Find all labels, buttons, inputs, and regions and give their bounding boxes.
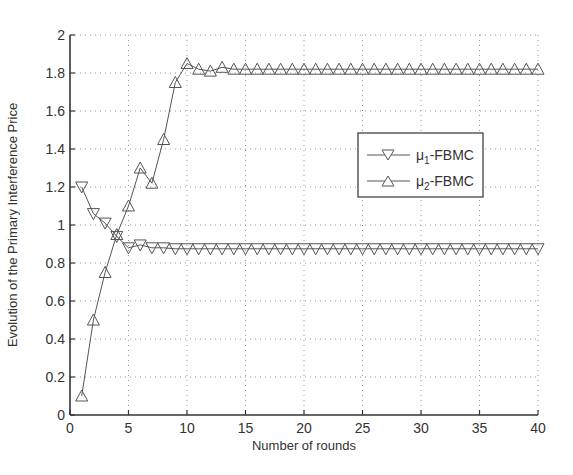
x-tick-label: 10 [179,420,195,436]
data-series [76,58,544,402]
y-tick-label: 1.2 [46,179,66,195]
y-tick-label: 1.4 [46,141,66,157]
x-tick-label: 30 [413,420,429,436]
x-tick-label: 40 [530,420,546,436]
legend-label-main: μ [416,173,424,189]
y-tick-label: 0 [57,407,65,423]
series-line [82,64,538,397]
y-tick-label: 2 [57,27,65,43]
x-tick-label: 5 [125,420,133,436]
x-tick-label: 35 [472,420,488,436]
series-2 [76,58,544,402]
x-tick-label: 0 [66,420,74,436]
x-tick-label: 20 [296,420,312,436]
y-axis-label: Evolution of the Primary Interference Pr… [5,103,20,347]
legend-label-suffix: -FBMC [430,173,474,189]
legend: μ1-FBMC μ2-FBMC [358,133,483,197]
y-tick-label: 0.4 [46,331,66,347]
x-axis-label: Number of rounds [252,438,357,453]
y-tick-label: 1.6 [46,103,66,119]
y-tick-label: 0.8 [46,255,66,271]
legend-label-suffix: -FBMC [430,147,474,163]
y-tick-label: 1.8 [46,65,66,81]
y-tick-label: 1 [57,217,65,233]
y-tick-label: 0.2 [46,369,66,385]
gridlines [70,35,538,415]
x-tick-label: 15 [238,420,254,436]
x-tick-label: 25 [355,420,371,436]
chart: 051015202530354000.20.40.60.811.21.41.61… [0,0,573,475]
y-tick-label: 0.6 [46,293,66,309]
legend-label-main: μ [416,147,424,163]
